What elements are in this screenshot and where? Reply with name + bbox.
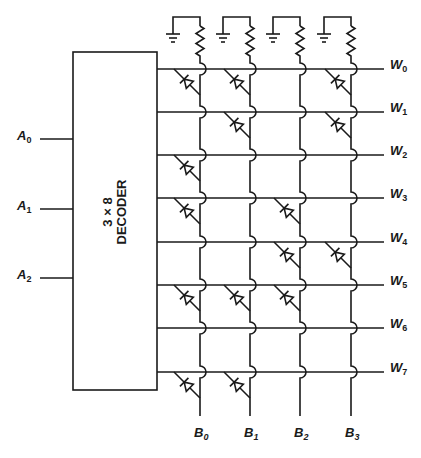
address-label-a2: A2: [17, 268, 31, 281]
bit-label-b1: B1: [244, 426, 258, 439]
address-label-a0: A0: [17, 129, 31, 142]
resistor-icon-b0: [196, 26, 204, 57]
decoder-label: 3 × 8 DECODER: [101, 179, 129, 244]
resistor-icon-b3: [347, 26, 355, 57]
word-label-w2: W2: [390, 144, 407, 157]
decoder-title: DECODER: [115, 179, 129, 244]
bit-label-b3: B3: [345, 426, 359, 439]
word-label-w7: W7: [390, 361, 407, 374]
pulldown-wire-b2: [273, 17, 300, 34]
bit-line-b0: [200, 57, 206, 416]
address-label-a1: A1: [17, 199, 31, 212]
word-label-w0: W0: [390, 58, 407, 71]
word-label-w4: W4: [390, 231, 407, 244]
bit-line-b3: [351, 57, 357, 416]
decoder-size: 3 × 8: [101, 179, 115, 244]
pulldown-wire-b3: [324, 17, 351, 34]
rom-diagram: [0, 0, 421, 458]
resistor-icon-b2: [296, 26, 304, 57]
bit-label-b2: B2: [294, 426, 308, 439]
bit-line-b2: [300, 57, 306, 416]
pulldown-wire-b1: [223, 17, 250, 34]
word-label-w5: W5: [390, 274, 407, 287]
bit-label-b0: B0: [194, 426, 208, 439]
word-label-w6: W6: [390, 317, 407, 330]
bit-line-b1: [250, 57, 256, 416]
word-label-w3: W3: [390, 187, 407, 200]
resistor-icon-b1: [246, 26, 254, 57]
word-label-w1: W1: [390, 101, 407, 114]
pulldown-wire-b0: [173, 17, 200, 34]
